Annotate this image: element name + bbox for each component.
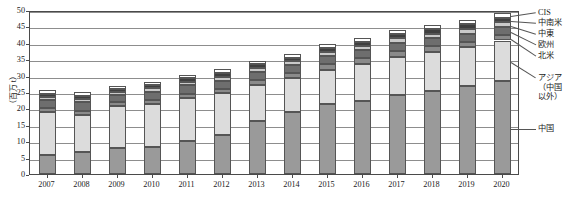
bar-segment bbox=[389, 38, 406, 43]
legend-label: 中南米 bbox=[538, 18, 562, 28]
bar-segment bbox=[284, 73, 301, 78]
legend-item-4[interactable]: 欧州 bbox=[538, 40, 554, 50]
legend-label: アジア bbox=[538, 73, 562, 83]
gridline bbox=[30, 94, 518, 95]
bar-segment bbox=[109, 102, 126, 106]
bar-segment bbox=[424, 25, 441, 29]
gridline bbox=[30, 78, 518, 79]
bar-segment bbox=[459, 47, 476, 86]
x-tick-mark bbox=[257, 175, 258, 178]
bar-segment bbox=[179, 75, 196, 79]
bar-segment bbox=[354, 38, 371, 42]
legend-item-5[interactable]: 北米 bbox=[538, 51, 554, 61]
x-tick-label: 2008 bbox=[62, 181, 102, 189]
bar-segment bbox=[109, 95, 126, 103]
x-tick-label: 2016 bbox=[342, 181, 382, 189]
bar-segment bbox=[494, 13, 511, 17]
bar-segment bbox=[109, 89, 126, 92]
x-tick-label: 2018 bbox=[412, 181, 452, 189]
y-tick-label: 40 bbox=[5, 40, 25, 48]
bar-segment bbox=[494, 22, 511, 27]
bar-segment bbox=[214, 93, 231, 135]
legend: CIS中南米中東欧州北米アジア（中国以外）中国 bbox=[538, 0, 575, 200]
x-tick-label: 2011 bbox=[167, 181, 207, 189]
bar-segment bbox=[319, 70, 336, 105]
x-tick-mark bbox=[327, 175, 328, 178]
gridline bbox=[30, 160, 518, 161]
bar-segment bbox=[319, 64, 336, 69]
x-tick-label: 2010 bbox=[132, 181, 172, 189]
legend-label-line2: （中国 bbox=[538, 83, 562, 93]
bar-segment bbox=[424, 46, 441, 52]
bar-segment bbox=[494, 41, 511, 82]
bar-segment bbox=[179, 85, 196, 93]
bar-segment bbox=[39, 112, 56, 155]
bar-segment bbox=[109, 148, 126, 174]
gridline bbox=[30, 127, 518, 128]
x-tick-label: 2017 bbox=[377, 181, 417, 189]
bar-segment bbox=[354, 64, 371, 101]
bar-segment bbox=[249, 68, 266, 72]
bar-stack bbox=[214, 10, 231, 174]
bar-stack bbox=[39, 10, 56, 174]
bar-segment bbox=[144, 82, 161, 85]
x-tick-mark bbox=[222, 175, 223, 178]
x-tick-mark bbox=[432, 175, 433, 178]
legend-label: 北米 bbox=[538, 51, 554, 61]
bar-segment bbox=[249, 72, 266, 80]
bar-segment bbox=[319, 104, 336, 174]
legend-item-6[interactable]: アジア（中国以外） bbox=[538, 73, 562, 102]
bar-segment bbox=[389, 30, 406, 34]
legend-item-7[interactable]: 中国 bbox=[538, 124, 554, 134]
bar-segment bbox=[424, 91, 441, 174]
chart-root: （百万 t） 05101520253035404550 200720082009… bbox=[0, 0, 575, 200]
gridline bbox=[30, 61, 518, 62]
bar-segment bbox=[424, 52, 441, 91]
bar-segment bbox=[74, 152, 91, 174]
bar-segment bbox=[494, 81, 511, 174]
bar-segment bbox=[249, 80, 266, 85]
bar-segment bbox=[214, 69, 231, 73]
bar-stack bbox=[109, 10, 126, 174]
x-tick-label: 2019 bbox=[447, 181, 487, 189]
bar-segment bbox=[284, 54, 301, 58]
bar-segment bbox=[284, 78, 301, 112]
bar-segment bbox=[39, 100, 56, 109]
y-axis-title: （百万 t） bbox=[10, 60, 18, 120]
bar-segment bbox=[74, 115, 91, 152]
bar-segment bbox=[109, 92, 126, 95]
bar-segment bbox=[74, 99, 91, 102]
legend-item-2[interactable]: 中南米 bbox=[538, 18, 562, 28]
bar-segment bbox=[144, 104, 161, 147]
x-tick-label: 2014 bbox=[272, 181, 312, 189]
bar-segment bbox=[179, 82, 196, 86]
bar-segment bbox=[459, 20, 476, 24]
x-tick-mark bbox=[502, 175, 503, 178]
bar-segment bbox=[319, 44, 336, 48]
y-tick-label: 0 bbox=[5, 171, 25, 179]
bar-segment bbox=[494, 27, 511, 35]
bar-segment bbox=[179, 98, 196, 140]
bar-stack bbox=[354, 10, 371, 174]
gridline bbox=[30, 110, 518, 111]
bar-segment bbox=[354, 101, 371, 174]
x-tick-mark bbox=[292, 175, 293, 178]
bar-segment bbox=[39, 155, 56, 174]
legend-item-1[interactable]: CIS bbox=[538, 8, 551, 18]
y-tick-label: 10 bbox=[5, 138, 25, 146]
bar-segment bbox=[249, 61, 266, 65]
bar-segment bbox=[109, 86, 126, 89]
bar-segment bbox=[319, 56, 336, 64]
bar-stack bbox=[284, 10, 301, 174]
bar-segment bbox=[39, 94, 56, 97]
x-tick-mark bbox=[187, 175, 188, 178]
bar-segment bbox=[179, 94, 196, 99]
legend-label: CIS bbox=[538, 8, 551, 18]
legend-label-line3: 以外） bbox=[538, 92, 562, 102]
bar-segment bbox=[249, 85, 266, 121]
bar-segment bbox=[179, 141, 196, 174]
bar-stack bbox=[74, 10, 91, 174]
bar-segment bbox=[354, 42, 371, 46]
legend-item-3[interactable]: 中東 bbox=[538, 29, 554, 39]
bar-segment bbox=[144, 88, 161, 91]
